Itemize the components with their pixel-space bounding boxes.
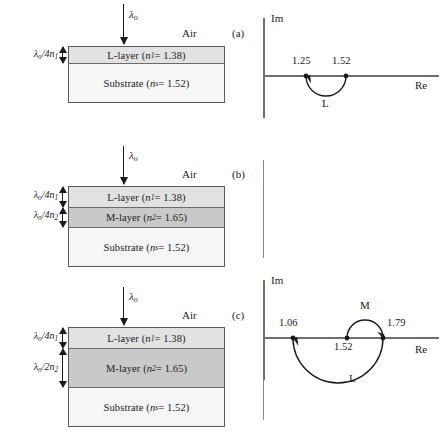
thickness-label-m-b: λo/4n2 bbox=[4, 209, 58, 222]
admittance-plot-a: Im Re 1.25 1.52 L bbox=[263, 18, 441, 118]
thickness-dim-l-b bbox=[62, 187, 63, 207]
panel-b: λo Air (b) L-layer (n1 = 1.38) M-layer (… bbox=[0, 120, 443, 260]
figure-root: λo Air (a) L-layer (n1 = 1.38) Substrate… bbox=[0, 0, 443, 443]
film-stack-c: L-layer (n1 = 1.38) M-layer (n2 = 1.65) … bbox=[68, 327, 225, 427]
layer-m-b: M-layer (n2 = 1.65) bbox=[69, 208, 224, 228]
layer-substrate-a: Substrate (ns = 1.52) bbox=[69, 64, 224, 102]
layer-l-b: L-layer (n1 = 1.38) bbox=[69, 187, 224, 208]
thickness-dim-m-b bbox=[62, 208, 63, 227]
curve-label-a-L: L bbox=[322, 97, 329, 109]
thickness-dim-l-c bbox=[62, 328, 63, 348]
panel-letter-a: (a) bbox=[232, 27, 244, 39]
layer-l-a: L-layer (n1 = 1.38) bbox=[69, 47, 224, 64]
thickness-label-l-c: λo/4n1 bbox=[4, 330, 58, 343]
film-stack-a: L-layer (n1 = 1.38) Substrate (ns = 1.52… bbox=[68, 46, 225, 103]
layer-l-c: L-layer (n1 = 1.38) bbox=[69, 328, 224, 349]
panel-letter-c: (c) bbox=[232, 309, 244, 321]
panel-letter-b: (b) bbox=[232, 168, 245, 180]
incident-ray-arrow-a bbox=[123, 4, 124, 44]
air-label-b: Air bbox=[182, 168, 443, 180]
film-stack-b: L-layer (n1 = 1.38) M-layer (n2 = 1.65) … bbox=[68, 186, 225, 267]
thickness-dim-m-c bbox=[62, 349, 63, 387]
panel-a: λo Air (a) L-layer (n1 = 1.38) Substrate… bbox=[0, 0, 443, 120]
axis-label-re-a: Re bbox=[415, 79, 427, 91]
tick-label-a-1: 1.52 bbox=[332, 55, 350, 66]
air-label-c: Air bbox=[182, 309, 443, 321]
axis-label-im-a: Im bbox=[271, 12, 283, 24]
incident-ray-arrow-c bbox=[123, 287, 124, 325]
thickness-label-m-c: λo/2n2 bbox=[4, 361, 58, 374]
panel-c: λo Air (c) L-layer (n1 = 1.38) M-layer (… bbox=[0, 260, 443, 443]
incident-ray-arrow-b bbox=[123, 146, 124, 184]
layer-m-c: M-layer (n2 = 1.65) bbox=[69, 349, 224, 388]
thickness-label-l-a: λo/4n1 bbox=[4, 48, 58, 61]
thickness-label-l-b: λo/4n1 bbox=[4, 189, 58, 202]
layer-substrate-c: Substrate (ns = 1.52) bbox=[69, 388, 224, 426]
incident-wavelength-label-a: λo bbox=[129, 8, 138, 22]
incident-wavelength-label-c: λo bbox=[129, 290, 138, 304]
incident-wavelength-label-b: λo bbox=[129, 149, 138, 163]
thickness-dim-l-a bbox=[62, 47, 63, 63]
tick-label-a-0: 1.25 bbox=[292, 55, 310, 66]
